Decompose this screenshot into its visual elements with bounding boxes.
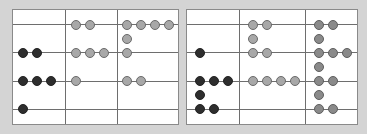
- dot: [314, 34, 324, 44]
- column-divider: [117, 10, 118, 124]
- dot: [150, 20, 160, 30]
- dot: [262, 76, 272, 86]
- dot: [99, 48, 109, 58]
- dot: [71, 76, 81, 86]
- dot: [314, 62, 324, 72]
- dot: [314, 48, 324, 58]
- dot: [122, 34, 132, 44]
- dot: [85, 48, 95, 58]
- dot: [195, 104, 205, 114]
- dot: [223, 76, 233, 86]
- dot: [314, 20, 324, 30]
- right-panel: [186, 9, 358, 125]
- dot: [18, 104, 28, 114]
- dot: [46, 76, 56, 86]
- column-divider: [305, 10, 306, 124]
- dot: [328, 48, 338, 58]
- dot: [32, 48, 42, 58]
- dot: [276, 76, 286, 86]
- dot: [328, 76, 338, 86]
- dot: [248, 20, 258, 30]
- dot: [195, 76, 205, 86]
- dot: [18, 76, 28, 86]
- dot: [71, 20, 81, 30]
- dot: [314, 104, 324, 114]
- column-divider: [239, 10, 240, 124]
- row-line: [13, 109, 178, 110]
- column-divider: [65, 10, 66, 124]
- dot: [248, 34, 258, 44]
- dot: [328, 104, 338, 114]
- dot: [209, 104, 219, 114]
- dot: [164, 20, 174, 30]
- dot: [342, 48, 352, 58]
- dot: [18, 48, 28, 58]
- dot: [248, 76, 258, 86]
- dot: [195, 48, 205, 58]
- dot: [71, 48, 81, 58]
- dot: [314, 90, 324, 100]
- dot: [122, 48, 132, 58]
- dot: [85, 20, 95, 30]
- dot: [328, 20, 338, 30]
- dot: [122, 76, 132, 86]
- dot: [195, 90, 205, 100]
- dot: [262, 48, 272, 58]
- dot: [32, 76, 42, 86]
- dot: [136, 76, 146, 86]
- dot: [262, 20, 272, 30]
- dot: [122, 20, 132, 30]
- left-panel: [12, 9, 179, 125]
- dot: [314, 76, 324, 86]
- dot: [290, 76, 300, 86]
- dot: [248, 48, 258, 58]
- dot: [136, 20, 146, 30]
- dot: [209, 76, 219, 86]
